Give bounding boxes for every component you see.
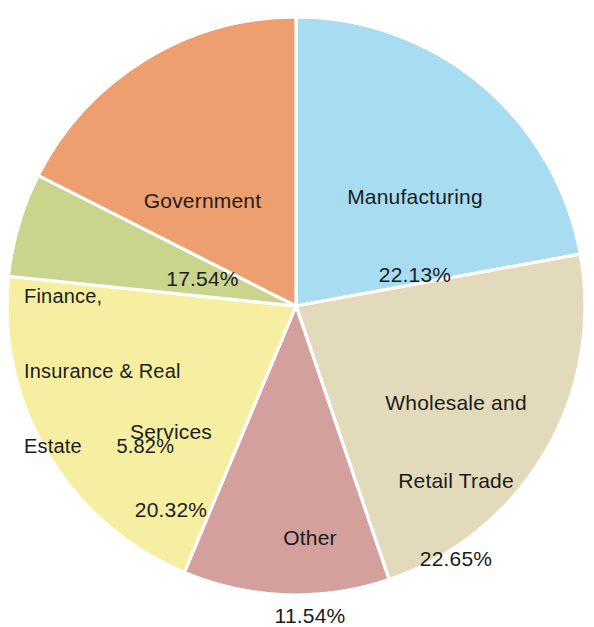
pie-slice-group	[7, 17, 585, 595]
